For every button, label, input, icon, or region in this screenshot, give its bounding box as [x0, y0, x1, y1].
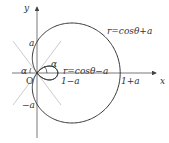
x-axis-label: x: [160, 76, 165, 86]
outer-curve-equation: r=cosθ+a: [107, 26, 152, 36]
angle-arc-left: [30, 68, 31, 73]
tick-label-neg-a: −a: [22, 100, 35, 110]
diagram-canvas: y x O a −a 1−a 1+a r=cosθ+a r=cosθ−a α α: [0, 0, 169, 143]
tick-label-a: a: [29, 38, 34, 48]
angle-label-left: α: [21, 66, 27, 76]
tick-label-one-minus-a: 1−a: [61, 76, 80, 86]
origin-label: O: [26, 76, 33, 86]
tick-label-one-plus-a: 1+a: [121, 76, 140, 86]
y-axis-label: y: [23, 3, 30, 13]
angle-label-right: α: [51, 59, 57, 69]
inner-curve-equation: r=cosθ−a: [63, 66, 108, 76]
